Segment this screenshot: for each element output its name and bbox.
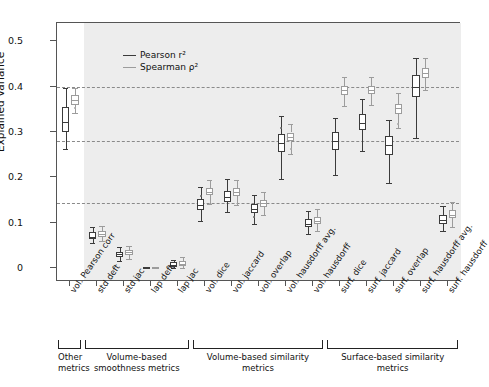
median-line [385,145,392,146]
cap-lower [386,183,391,184]
whisker-lower [443,224,444,231]
whisker-upper [75,88,76,95]
y-tick-label: 0.4 [8,80,23,91]
cap-upper [117,247,122,248]
cap-upper [440,206,445,207]
cap-upper [252,195,257,196]
cap-lower [315,231,320,232]
legend-label-pearson: Pearson r² [140,49,186,61]
cap-lower [126,259,131,260]
median-line [439,220,446,221]
y-tick-label: 0 [17,262,23,273]
gridline [57,141,459,142]
whisker-upper [398,93,399,103]
median-line [116,254,123,255]
median-line [251,209,258,210]
cap-lower [333,175,338,176]
cap-lower [180,268,185,269]
group-bracket-label: Other metrics [58,352,81,374]
cap-lower [63,149,68,150]
whisker-lower [425,78,426,91]
cap-upper [396,93,401,94]
median-line [152,268,159,269]
whisker-upper [443,206,444,215]
plot-area: Pearson r² Spearman ρ² [56,22,460,281]
whisker-lower [398,114,399,128]
median-line [422,73,429,74]
median-line [359,123,366,124]
cap-lower [279,179,284,180]
median-line [179,264,186,265]
y-axis-label: Explained Variance [0,52,6,152]
whisker-upper [264,192,265,200]
cap-upper [198,187,203,188]
whisker-upper [210,180,211,188]
cap-upper [279,116,284,117]
cap-upper [207,180,212,181]
cap-upper [386,120,391,121]
legend-swatch-spearman [123,67,136,68]
whisker-upper [291,124,292,133]
median-line [143,268,150,269]
median-line [260,203,267,204]
cap-lower [342,106,347,107]
whisker-upper [371,77,372,86]
whisker-upper [227,179,228,190]
y-tick-label: 0.3 [8,126,23,137]
whisker-lower [281,152,282,179]
group-bracket-label: Volume-based similarity metrics [193,352,324,374]
gridline [57,203,459,204]
median-line [71,100,78,101]
cap-lower [207,204,212,205]
whisker-upper [425,58,426,68]
cap-lower [252,224,257,225]
cap-lower [225,212,230,213]
cap-upper [333,118,338,119]
group-bracket [193,340,324,349]
median-line [341,90,348,91]
cap-lower [261,215,266,216]
group-bracket-label: Volume-based smoothness metrics [85,352,189,374]
cap-upper [261,192,266,193]
group-bracket-label: Surface-based similarity metrics [327,352,458,374]
gridline [57,87,459,88]
cap-upper [369,77,374,78]
median-line [449,215,456,216]
cap-upper [413,58,418,59]
cap-lower [360,151,365,152]
cap-lower [396,128,401,129]
median-line [368,90,375,91]
whisker-lower [227,202,228,212]
cap-upper [306,211,311,212]
cap-upper [126,246,131,247]
cap-lower [306,234,311,235]
legend: Pearson r² Spearman ρ² [123,49,198,73]
cap-upper [171,260,176,261]
whisker-upper [201,187,202,199]
cap-lower [413,138,418,139]
box-iqr [62,107,69,132]
median-line [395,108,402,109]
whisker-lower [416,97,417,137]
cap-lower [234,205,239,206]
cap-upper [450,202,455,203]
cap-upper [225,179,230,180]
whisker-lower [254,213,255,223]
cap-upper [90,227,95,228]
y-tick-label: 0.2 [8,171,23,182]
whisker-upper [308,211,309,219]
group-band [326,23,461,280]
median-line [314,221,321,222]
whisker-upper [389,120,390,136]
whisker-upper [237,180,238,188]
median-line [125,252,132,253]
median-line [233,192,240,193]
cap-lower [440,231,445,232]
cap-lower [288,154,293,155]
whisker-upper [66,88,67,107]
cap-lower [198,221,203,222]
legend-label-spearman: Spearman ρ² [140,61,198,73]
cap-upper [234,180,239,181]
cap-upper [315,209,320,210]
whisker-upper [335,118,336,132]
